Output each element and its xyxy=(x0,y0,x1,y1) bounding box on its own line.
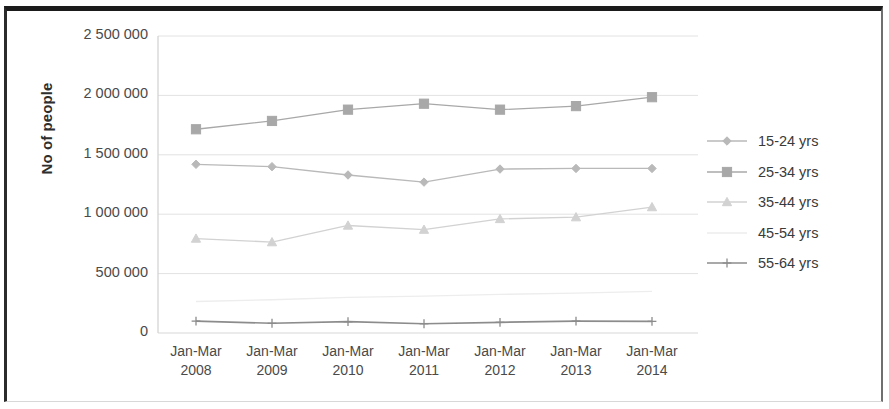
legend-item-45-54-yrs: 45-54 yrs xyxy=(705,218,880,249)
legend-label: 15-24 yrs xyxy=(758,133,818,149)
chart-page: No of people 2 500 0002 000 0001 500 000… xyxy=(0,0,889,409)
data-point-cross xyxy=(723,259,732,268)
legend-marker-line-icon xyxy=(705,226,749,240)
data-point-square xyxy=(722,167,731,176)
legend-item-15-24-yrs: 15-24 yrs xyxy=(705,126,880,157)
legend-item-25-34-yrs: 25-34 yrs xyxy=(705,157,880,188)
legend-marker-square-icon xyxy=(705,165,749,179)
legend-item-55-64-yrs: 55-64 yrs xyxy=(705,248,880,279)
x-tick-period: Jan-Mar xyxy=(604,342,700,361)
legend-label: 25-34 yrs xyxy=(758,164,818,180)
x-tick-label: Jan-Mar2014 xyxy=(604,342,700,380)
legend-marker-cross-icon xyxy=(705,256,749,270)
legend-label: 35-44 yrs xyxy=(758,194,818,210)
chart-legend: 15-24 yrs25-34 yrs35-44 yrs45-54 yrs55-6… xyxy=(705,126,880,279)
x-tick-year: 2014 xyxy=(604,361,700,380)
data-point-diamond xyxy=(723,137,731,145)
legend-marker-diamond-icon xyxy=(705,134,749,148)
legend-label: 45-54 yrs xyxy=(758,225,818,241)
line-chart: No of people 2 500 0002 000 0001 500 000… xyxy=(0,0,889,409)
legend-item-35-44-yrs: 35-44 yrs xyxy=(705,187,880,218)
legend-label: 55-64 yrs xyxy=(758,255,818,271)
legend-marker-triangle-icon xyxy=(705,195,749,209)
